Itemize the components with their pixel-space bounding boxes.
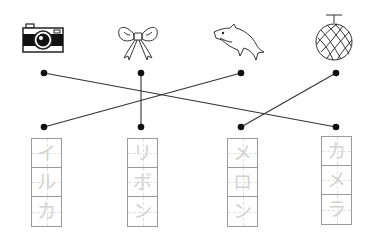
trace-char: ボ <box>133 173 152 192</box>
trace-cell[interactable]: ラ <box>322 195 351 224</box>
trace-cell[interactable]: ン <box>128 197 157 226</box>
trace-char: メ <box>327 171 346 190</box>
word-box-ribon: リ ボ ン <box>127 138 158 227</box>
trace-char: ル <box>37 173 56 192</box>
trace-cell[interactable]: ロ <box>228 168 257 197</box>
trace-cell[interactable]: ン <box>228 197 257 226</box>
trace-cell[interactable]: ル <box>32 168 61 197</box>
dot-bottom-kamera <box>333 124 340 131</box>
trace-char: カ <box>37 202 56 221</box>
trace-char: メ <box>233 144 252 163</box>
dot-bottom-iruka <box>41 124 48 131</box>
dot-top-melon <box>333 70 340 77</box>
word-box-iruka: イ ル カ <box>31 138 62 227</box>
dot-top-camera <box>41 70 48 77</box>
trace-char: リ <box>133 144 152 163</box>
trace-cell[interactable]: メ <box>228 139 257 168</box>
trace-cell[interactable]: イ <box>32 139 61 168</box>
trace-cell[interactable]: ボ <box>128 168 157 197</box>
trace-char: ラ <box>327 200 346 219</box>
trace-char: カ <box>327 142 346 161</box>
trace-cell[interactable]: カ <box>322 137 351 166</box>
trace-char: ン <box>233 202 252 221</box>
trace-cell[interactable]: カ <box>32 197 61 226</box>
dot-bottom-ribon <box>138 124 145 131</box>
trace-char: ロ <box>233 173 252 192</box>
word-box-kamera: カ メ ラ <box>321 136 352 225</box>
word-box-meron: メ ロ ン <box>227 138 258 227</box>
trace-cell[interactable]: リ <box>128 139 157 168</box>
dot-top-dolphin <box>238 70 245 77</box>
line-melon-meron <box>241 73 336 127</box>
dot-bottom-meron <box>238 124 245 131</box>
trace-char: ン <box>133 202 152 221</box>
trace-cell[interactable]: メ <box>322 166 351 195</box>
trace-char: イ <box>37 144 56 163</box>
line-camera-kamera <box>44 73 336 127</box>
dot-top-ribbon <box>138 70 145 77</box>
line-dolphin-iruka <box>44 73 241 127</box>
